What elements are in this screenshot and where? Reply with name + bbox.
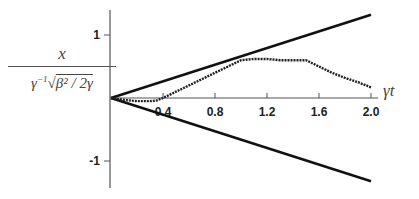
upper-bound-line — [111, 15, 371, 98]
x-axis-label: γt — [383, 81, 394, 101]
y-label-numerator: x — [4, 44, 120, 64]
y-tick-label: -1 — [89, 154, 100, 168]
trajectory-line — [111, 59, 371, 101]
lower-bound-line — [111, 98, 371, 181]
y-axis-label: x γ−1√β² / 2γ — [4, 44, 120, 93]
x-tick-label: 1.2 — [259, 105, 276, 119]
sqrt-icon: √ — [48, 75, 56, 91]
fraction-bar — [8, 66, 116, 67]
x-tick-label: 2.0 — [363, 105, 380, 119]
y-label-denominator: γ−1√β² / 2γ — [4, 69, 120, 93]
x-ticks: 0.40.81.21.62.0 — [155, 93, 380, 119]
x-tick-label: 1.6 — [311, 105, 328, 119]
chart-plot-area: 1-1 0.40.81.21.62.0 — [0, 0, 419, 199]
x-tick-label: 0.8 — [207, 105, 224, 119]
y-tick-label: 1 — [93, 28, 100, 42]
